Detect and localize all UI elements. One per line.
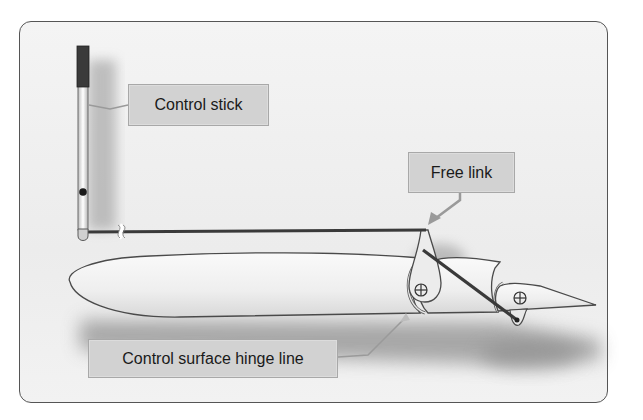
push-rod bbox=[84, 230, 426, 232]
airfoil-main bbox=[69, 253, 420, 317]
bellcrank bbox=[409, 230, 441, 302]
arrow-free-link-icon bbox=[428, 212, 441, 225]
break-symbol-icon bbox=[120, 225, 122, 238]
hinge-pivot-1-icon bbox=[415, 284, 427, 296]
label-free-link: Free link bbox=[408, 152, 515, 193]
stick-pivot-icon bbox=[79, 188, 87, 196]
leader-free-link bbox=[436, 193, 460, 218]
hinge-pivot-2-icon bbox=[514, 292, 526, 304]
arrow-hinge-icon bbox=[400, 313, 410, 322]
label-hinge-line: Control surface hinge line bbox=[88, 339, 338, 378]
control-stick bbox=[77, 46, 89, 241]
label-control-stick: Control stick bbox=[128, 84, 269, 126]
trailing-tab bbox=[496, 283, 596, 311]
stick-grip bbox=[77, 46, 89, 87]
